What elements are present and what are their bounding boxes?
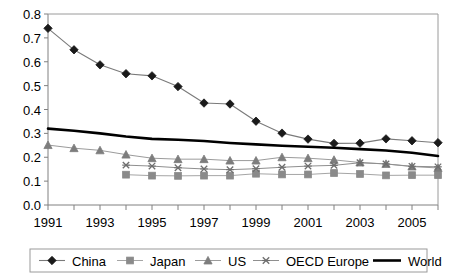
y-axis-tick-label: 0.1 <box>23 174 41 189</box>
x-axis-tick-label: 1999 <box>242 215 271 230</box>
data-point <box>331 170 338 177</box>
x-axis-tick-label: 2001 <box>294 215 323 230</box>
y-axis-tick-label: 0.4 <box>23 103 41 118</box>
x-axis-tick-label: 1995 <box>138 215 167 230</box>
y-axis-tick-label: 0.5 <box>23 79 41 94</box>
data-point <box>435 172 442 179</box>
chart-canvas: 0.00.10.20.30.40.50.60.70.8 199119931995… <box>0 0 457 279</box>
data-point <box>383 172 390 179</box>
chart-legend: ChinaJapanUSOECD EuropeWorld <box>30 249 442 272</box>
x-axis-tick-label: 1993 <box>86 215 115 230</box>
data-point <box>123 171 130 178</box>
data-point <box>305 171 312 178</box>
line-chart: 0.00.10.20.30.40.50.60.70.8 199119931995… <box>0 0 457 279</box>
legend-marker-icon <box>127 257 134 264</box>
y-axis-tick-label: 0.3 <box>23 126 41 141</box>
legend-label: OECD Europe <box>286 254 369 269</box>
x-axis-tick-label: 1997 <box>190 215 219 230</box>
y-axis-tick-label: 0.6 <box>23 55 41 70</box>
x-axis-tick-label: 2005 <box>398 215 427 230</box>
y-axis-tick-label: 0.8 <box>23 7 41 22</box>
data-point <box>149 172 156 179</box>
x-axis-tick-label: 2003 <box>346 215 375 230</box>
data-point <box>409 172 416 179</box>
y-axis-tick-label: 0.7 <box>23 31 41 46</box>
legend-label: China <box>72 254 107 269</box>
data-point <box>357 171 364 178</box>
data-point <box>279 171 286 178</box>
y-axis-tick-label: 0.0 <box>23 198 41 213</box>
y-axis-tick-label: 0.2 <box>23 150 41 165</box>
legend-label: US <box>228 254 246 269</box>
data-point <box>227 172 234 179</box>
legend-label: World <box>408 254 442 269</box>
legend-label: Japan <box>150 254 185 269</box>
data-point <box>201 172 208 179</box>
data-point <box>175 172 182 179</box>
x-axis-tick-label: 1991 <box>34 215 63 230</box>
